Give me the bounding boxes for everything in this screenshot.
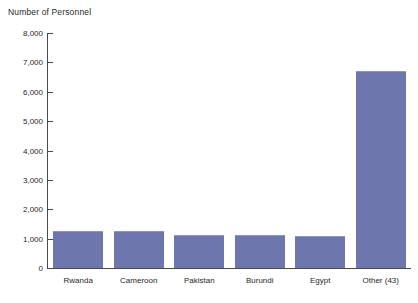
y-axis-tick-label: 7,000 — [3, 58, 43, 67]
bar-slot — [169, 33, 230, 268]
bar — [295, 236, 345, 268]
y-axis-tick-label: 6,000 — [3, 87, 43, 96]
y-axis-tick-label: 1,000 — [3, 234, 43, 243]
x-axis-category-label: Rwanda — [48, 276, 109, 285]
y-axis-tick-label: 5,000 — [3, 117, 43, 126]
y-axis-tick-label: 0 — [3, 264, 43, 273]
y-axis-tick — [47, 268, 53, 269]
chart-axis-title: Number of Personnel — [8, 7, 91, 17]
x-axis-category-label: Pakistan — [169, 276, 230, 285]
bar-series — [48, 33, 411, 268]
bar — [174, 235, 224, 268]
bar — [356, 71, 406, 268]
x-axis-category-label: Other (43) — [351, 276, 412, 285]
x-axis-category-label: Burundi — [230, 276, 291, 285]
y-axis-tick-label: 4,000 — [3, 146, 43, 155]
y-axis-tick-label: 8,000 — [3, 29, 43, 38]
bar-slot — [351, 33, 412, 268]
bar — [53, 231, 103, 268]
y-axis-tick-label: 3,000 — [3, 175, 43, 184]
y-axis-tick-label: 2,000 — [3, 205, 43, 214]
bar-slot — [290, 33, 351, 268]
bar-slot — [230, 33, 291, 268]
x-axis-category-label: Cameroon — [109, 276, 170, 285]
x-axis-category-label: Egypt — [290, 276, 351, 285]
bar-chart: Number of Personnel 01,0002,0003,0004,00… — [0, 0, 418, 303]
x-axis-line — [47, 268, 411, 269]
bar — [235, 235, 285, 268]
bar-slot — [48, 33, 109, 268]
bar — [114, 231, 164, 268]
x-axis-category-labels: RwandaCameroonPakistanBurundiEgyptOther … — [48, 276, 411, 285]
bar-slot — [109, 33, 170, 268]
